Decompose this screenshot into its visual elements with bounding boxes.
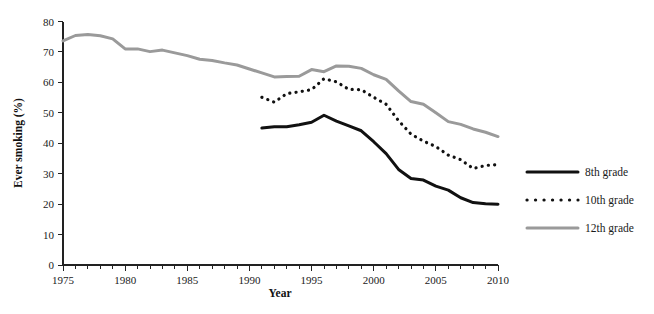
legend-label-12th-grade: 12th grade	[585, 222, 634, 235]
x-tick-label: 1990	[238, 274, 261, 286]
legend-label-8th-grade: 8th grade	[585, 166, 628, 179]
y-axis-title: Ever smoking (%)	[12, 98, 25, 188]
y-tick-label: 40	[43, 137, 55, 149]
y-tick-label: 30	[43, 168, 55, 180]
y-tick-label: 70	[43, 46, 55, 58]
x-tick-label: 1985	[176, 274, 199, 286]
y-tick-label: 20	[43, 198, 55, 210]
x-axis-title: Year	[269, 287, 292, 299]
y-tick-label: 50	[43, 107, 55, 119]
x-tick-label: 2010	[487, 274, 510, 286]
x-tick-label: 2005	[425, 274, 448, 286]
line-chart: 01020304050607080 1975198019851990199520…	[0, 0, 654, 314]
x-tick-label: 1975	[52, 274, 75, 286]
y-tick-label: 60	[43, 76, 55, 88]
y-tick-label: 0	[49, 259, 55, 271]
x-tick-label: 2000	[363, 274, 386, 286]
y-tick-label: 80	[43, 16, 55, 28]
chart-figure: 01020304050607080 1975198019851990199520…	[0, 0, 654, 314]
x-tick-label: 1995	[301, 274, 324, 286]
x-tick-label: 1980	[114, 274, 137, 286]
legend-label-10th-grade: 10th grade	[585, 194, 634, 207]
chart-background	[0, 0, 654, 314]
y-tick-label: 10	[43, 229, 55, 241]
